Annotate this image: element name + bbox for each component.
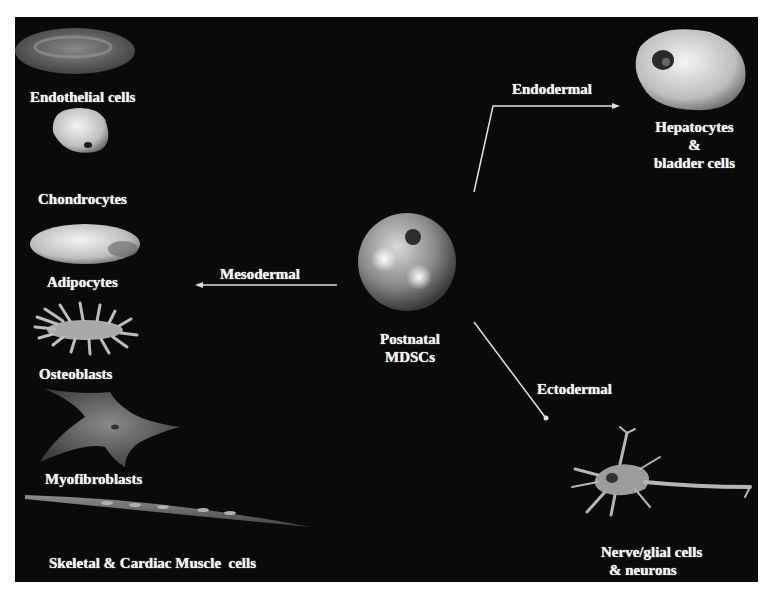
label-hepatocytes-bladder: Hepatocytes & bladder cells [637,118,752,172]
mdsc-sphere-icon [358,213,456,311]
label-bladder-cells: bladder cells [637,154,752,172]
chondrocyte-icon [53,108,109,153]
diagram-panel: Endothelial cells Chondrocytes Adipocyte… [15,17,758,582]
muscle-fiber-icon [25,495,310,527]
label-ampersand: & [637,136,752,154]
endodermal-arrow [474,103,620,192]
label-osteoblasts: Osteoblasts [39,365,112,383]
label-ectodermal: Ectodermal [537,380,612,398]
label-adipocytes: Adipocytes [47,273,118,291]
myofibroblast-icon [40,389,180,467]
label-mesodermal: Mesodermal [220,265,300,283]
neuron-icon [572,427,750,515]
ectodermal-arrow [474,322,549,421]
adipocyte-icon [30,224,140,264]
label-endodermal: Endodermal [512,80,592,98]
label-nerve-glial: Nerve/glial cells [601,543,702,561]
label-hepatocytes: Hepatocytes [637,118,752,136]
label-skeletal-cardiac-muscle: Skeletal & Cardiac Muscle cells [49,554,256,572]
label-myofibroblasts: Myofibroblasts [45,470,142,488]
label-mdscs: MDSCs [365,348,455,366]
label-chondrocytes: Chondrocytes [38,190,127,208]
osteoblast-icon [35,303,137,354]
label-neurons: & neurons [601,561,702,579]
hepatocyte-icon [636,29,746,110]
endothelial-cell-icon [15,28,135,74]
label-endothelial-cells: Endothelial cells [30,88,135,106]
label-postnatal: Postnatal [365,330,455,348]
label-postnatal-mdscs: Postnatal MDSCs [365,330,455,366]
label-nerve-glial-neurons: Nerve/glial cells & neurons [601,543,702,579]
